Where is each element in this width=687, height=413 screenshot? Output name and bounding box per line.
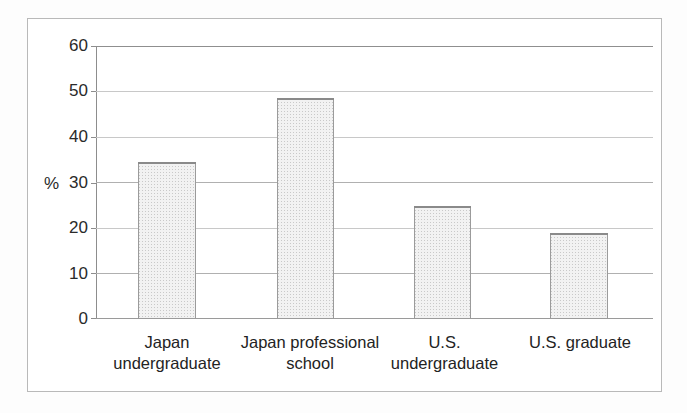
bar-us-undergraduate: 24.8 — [414, 206, 471, 318]
bar-top-cap — [277, 98, 334, 100]
x-category-label-line-2: undergraduate — [362, 353, 527, 374]
x-category-label-us-graduate: U.S. graduate — [505, 332, 655, 353]
x-category-label-japan-undergraduate: Japan undergraduate — [87, 332, 247, 374]
y-tick-label-40: 40 — [48, 128, 88, 145]
y-tick-label-0: 0 — [48, 310, 88, 327]
y-axis-tick-labels: 60 50 40 30 20 10 0 — [26, 0, 88, 413]
gridline-50 — [96, 91, 653, 92]
x-category-label-line-2: undergraduate — [87, 353, 247, 374]
gridline-0-baseline — [96, 318, 653, 319]
bar-top-cap — [550, 233, 608, 235]
gridline-40 — [96, 137, 653, 138]
x-category-label-line-1: U.S. graduate — [505, 332, 655, 353]
bar-top-cap — [414, 206, 471, 208]
bar-us-graduate: 18.8 — [550, 233, 608, 318]
bar-chart-figure: % 60 50 40 30 20 10 0 34.4 48.6 — [0, 0, 687, 413]
gridline-60 — [96, 46, 653, 47]
bar-japan-undergraduate: 34.4 — [138, 162, 196, 318]
y-tick-label-20: 20 — [48, 219, 88, 236]
bar-japan-professional-school: 48.6 — [277, 98, 334, 318]
y-tick-label-10: 10 — [48, 265, 88, 282]
y-tick-label-30: 30 — [48, 174, 88, 191]
x-category-label-line-1: U.S. — [362, 332, 527, 353]
x-category-label-us-undergraduate: U.S. undergraduate — [362, 332, 527, 374]
x-category-label-line-1: Japan — [87, 332, 247, 353]
bar-top-cap — [138, 162, 196, 164]
plot-area: 34.4 48.6 24.8 18.8 — [96, 46, 653, 318]
y-tick-label-60: 60 — [48, 37, 88, 54]
y-tick-label-50: 50 — [48, 82, 88, 99]
